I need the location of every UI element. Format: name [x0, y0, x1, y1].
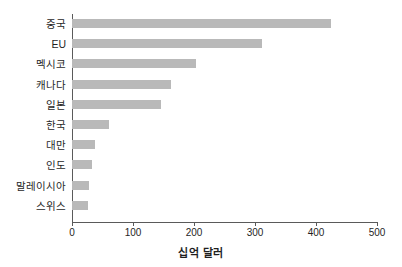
x-tick: [133, 222, 134, 226]
category-label: 스위스: [36, 196, 66, 216]
bar-chart: 중국EU멕시코캐나다일본한국대만인도말레이시아스위스 0100200300400…: [0, 0, 402, 267]
x-tick-label: 100: [125, 227, 142, 238]
bar-row: 멕시코: [72, 54, 377, 74]
x-axis-title: 십억 달러: [0, 244, 402, 260]
x-tick-label: 500: [369, 227, 386, 238]
category-label: 중국: [46, 14, 66, 34]
bar-row: 대만: [72, 135, 377, 155]
x-tick: [316, 222, 317, 226]
x-tick-label: 200: [186, 227, 203, 238]
bar-row: 일본: [72, 95, 377, 115]
x-tick: [377, 222, 378, 226]
bar: [72, 19, 331, 28]
x-tick: [255, 222, 256, 226]
bar: [72, 160, 92, 169]
bar: [72, 181, 89, 190]
bar-row: EU: [72, 34, 377, 54]
bar-row: 한국: [72, 115, 377, 135]
bar-row: 캐나다: [72, 75, 377, 95]
x-tick-label: 0: [69, 227, 75, 238]
x-tick: [72, 222, 73, 226]
category-label: EU: [51, 34, 66, 54]
category-label: 일본: [46, 95, 66, 115]
plot-area: 중국EU멕시코캐나다일본한국대만인도말레이시아스위스: [72, 14, 377, 222]
category-label: 캐나다: [36, 75, 66, 95]
bar-row: 인도: [72, 155, 377, 175]
category-label: 한국: [46, 115, 66, 135]
x-tick-label: 300: [247, 227, 264, 238]
x-tick-label: 400: [308, 227, 325, 238]
category-label: 대만: [46, 135, 66, 155]
x-axis-line: [72, 222, 378, 223]
x-tick: [194, 222, 195, 226]
bar: [72, 120, 109, 129]
bar: [72, 39, 262, 48]
bar: [72, 201, 88, 210]
bar-row: 말레이시아: [72, 176, 377, 196]
category-label: 멕시코: [36, 54, 66, 74]
bar: [72, 100, 161, 109]
bar: [72, 80, 171, 89]
bar-row: 중국: [72, 14, 377, 34]
category-label: 인도: [46, 155, 66, 175]
bar: [72, 140, 95, 149]
category-label: 말레이시아: [16, 176, 66, 196]
bar-row: 스위스: [72, 196, 377, 216]
bar: [72, 59, 196, 68]
